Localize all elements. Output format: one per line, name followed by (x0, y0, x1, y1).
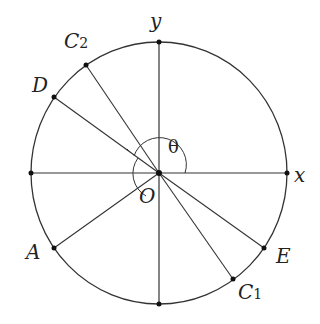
theta-label: θ (168, 136, 179, 157)
y-axis-label: y (149, 9, 162, 33)
point-a (52, 246, 57, 251)
label-c1: C1 (238, 280, 262, 304)
point-y-axis-top (157, 40, 162, 45)
origin-label: O (139, 184, 155, 208)
point-c1 (231, 277, 236, 282)
segment-o-e (159, 173, 264, 248)
point-d (52, 95, 57, 100)
label-d: D (31, 73, 48, 97)
label-a: A (24, 240, 40, 264)
segment-o-c1 (159, 173, 233, 279)
label-c2: C2 (64, 29, 88, 53)
segment-o-c2 (86, 65, 159, 173)
circle-diagram: y x O θ C2 D A E C1 (0, 0, 320, 324)
point-c2 (84, 63, 89, 68)
point-e (262, 246, 267, 251)
point-x-axis-right (285, 171, 290, 176)
point-y-axis-bottom (157, 302, 162, 307)
point-origin (156, 170, 162, 176)
arc-tick (127, 149, 131, 153)
label-e: E (275, 244, 291, 268)
point-x-axis-left (29, 171, 34, 176)
segment-o-d (54, 97, 159, 173)
x-axis-label: x (294, 163, 305, 187)
